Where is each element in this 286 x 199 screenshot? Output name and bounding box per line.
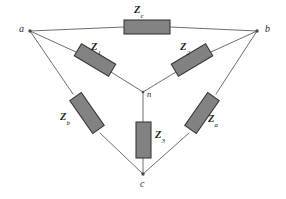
node-dot-a bbox=[28, 29, 31, 32]
wire-zc-to-b bbox=[170, 27, 257, 31]
impedance-box-z3 bbox=[136, 122, 151, 158]
impedance-subscript-za: a bbox=[214, 121, 218, 129]
impedance-subscript-zb: b bbox=[66, 119, 70, 127]
impedance-label-z2: Z2 bbox=[180, 42, 190, 55]
impedance-subscript-zc: c bbox=[140, 12, 143, 20]
circuit-svg bbox=[0, 0, 286, 199]
node-label-c: c bbox=[140, 179, 144, 189]
impedance-box-zc bbox=[124, 20, 170, 34]
impedance-label-zc: Zc bbox=[134, 5, 144, 18]
node-dot-b bbox=[255, 29, 258, 32]
impedance-box-z2 bbox=[171, 44, 212, 77]
impedance-subscript-z1: 1 bbox=[97, 49, 101, 57]
node-dot-n bbox=[142, 91, 145, 94]
node-label-b: b bbox=[265, 24, 270, 34]
impedance-subscript-z2: 2 bbox=[186, 49, 190, 57]
node-dot-c bbox=[141, 172, 144, 175]
impedance-label-z3: Z3 bbox=[155, 130, 165, 143]
wire-z1-to-n bbox=[111, 72, 143, 92]
impedance-box-zb bbox=[70, 93, 104, 134]
impedance-label-z1: Z1 bbox=[91, 42, 101, 55]
impedance-label-za: Za bbox=[208, 114, 218, 127]
wire-a-to-zc bbox=[30, 27, 124, 31]
node-label-n: n bbox=[147, 90, 151, 99]
impedance-subscript-z3: 3 bbox=[161, 137, 165, 145]
circuit-diagram: a b c n Zc Z1 Z2 Zb Za Z3 bbox=[0, 0, 286, 199]
node-label-a: a bbox=[19, 24, 24, 34]
impedance-label-zb: Zb bbox=[60, 112, 70, 125]
